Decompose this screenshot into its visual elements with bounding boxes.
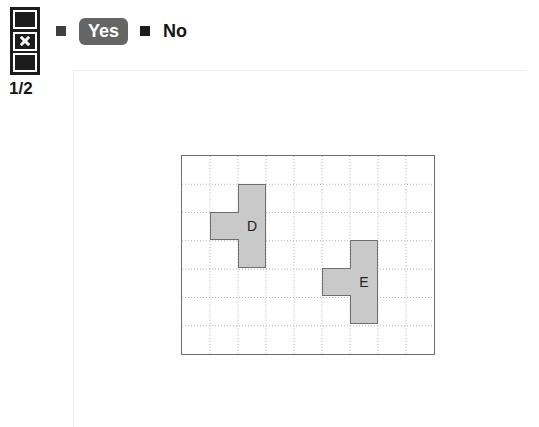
option-bullet-no-icon[interactable] — [140, 26, 150, 36]
page-stack-x-icon — [10, 7, 40, 75]
page-stack-cell-1 — [13, 10, 37, 29]
shape-seam — [351, 295, 377, 297]
shape-e-cell — [350, 296, 378, 324]
shape-e-cell — [350, 268, 378, 296]
page-counter: 1/2 — [9, 79, 33, 99]
shape-e-cell — [350, 240, 378, 268]
shape-seam — [349, 269, 351, 295]
page-stack-cell-2-current — [13, 32, 37, 51]
page-stack-cell-3 — [13, 53, 37, 72]
answer-options: Yes No — [56, 17, 187, 45]
shape-e[interactable]: E — [182, 156, 434, 354]
shape-layer: DE — [182, 156, 434, 354]
shape-e-cell — [322, 268, 350, 296]
puzzle-grid[interactable]: DE — [181, 155, 435, 355]
option-no-button[interactable]: No — [163, 21, 187, 41]
page-indicator — [10, 7, 40, 75]
option-bullet-yes-icon[interactable] — [56, 26, 66, 36]
option-yes-button[interactable]: Yes — [79, 18, 128, 45]
shape-seam — [351, 267, 377, 269]
